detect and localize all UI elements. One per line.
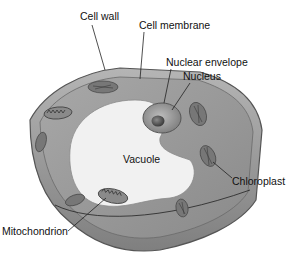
label-nuclear-envelope: Nuclear envelope	[166, 56, 248, 68]
label-vacuole: Vacuole	[123, 153, 160, 165]
plant-cell-diagram: Cell wall Cell membrane Nuclear envelope…	[0, 0, 286, 262]
label-cell-membrane: Cell membrane	[139, 19, 210, 31]
nucleus-group	[143, 103, 181, 133]
nucleolus	[152, 116, 165, 127]
leader-cell-wall	[92, 25, 105, 70]
label-mitochondrion: Mitochondrion	[2, 225, 68, 237]
label-nucleus: Nucleus	[183, 70, 221, 82]
label-cell-wall: Cell wall	[80, 10, 119, 22]
label-chloroplast: Chloroplast	[232, 175, 285, 187]
